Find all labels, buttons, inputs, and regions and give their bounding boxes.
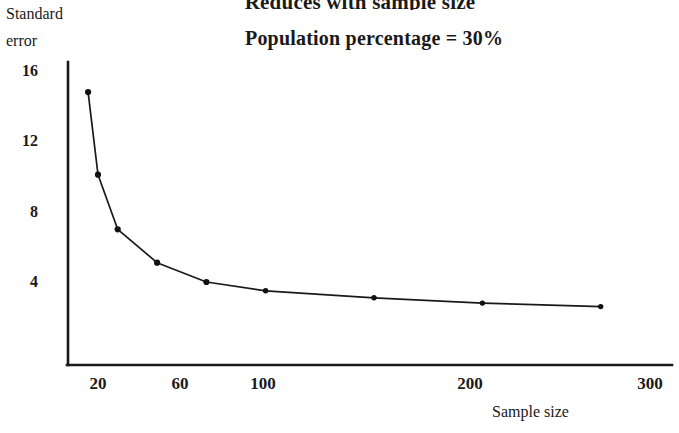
data-point bbox=[85, 89, 91, 95]
data-point bbox=[95, 172, 101, 178]
data-point bbox=[598, 304, 603, 309]
data-point bbox=[480, 300, 485, 305]
data-point bbox=[203, 279, 209, 285]
axis-lines bbox=[67, 62, 672, 365]
data-point bbox=[263, 288, 268, 293]
plot-area bbox=[0, 0, 679, 433]
series-line-standard-error bbox=[88, 92, 601, 307]
data-point bbox=[154, 260, 160, 266]
series-markers bbox=[85, 89, 603, 309]
data-point bbox=[371, 295, 376, 300]
chart-figure: Reduces with sample size Population perc… bbox=[0, 0, 679, 433]
data-point bbox=[115, 226, 121, 232]
